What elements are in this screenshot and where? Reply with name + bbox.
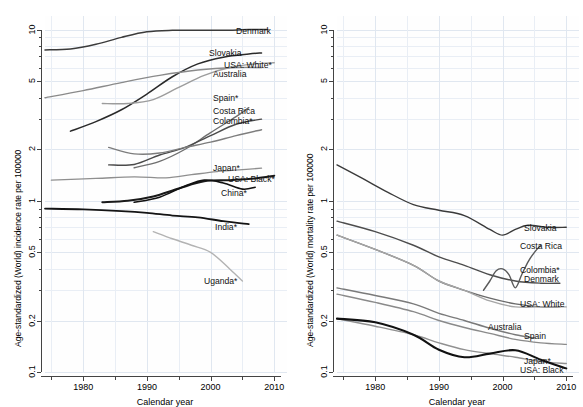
series-label-japan: Japan* [213,164,240,173]
series-label-slovakia: Slovakia [209,49,241,58]
series-label-spain: Spain [524,332,546,341]
series-label-usa-black: USA: Black [520,366,563,375]
series-label-denmark: Denmark [236,27,271,36]
series-line [109,130,262,155]
series-label-usa-black: USA: Black* [228,175,275,184]
series-layer [292,0,583,407]
series-label-colombia: Colombia* [213,117,253,126]
series-label-costa-rica: Costa Rica [213,107,255,116]
panel-mortality: 0.10.20.5125101980199020002010Calendar y… [292,0,583,407]
panel-incidence: 0.10.20.5125101980199020002010Calendar y… [0,0,291,407]
series-line [45,30,268,50]
figure-root: 0.10.20.5125101980199020002010Calendar y… [0,0,583,407]
series-label-uganda: Uganda* [204,277,237,286]
series-label-usa-white: USA: White [520,300,564,309]
series-label-slovakia: Slovakia [524,224,556,233]
series-label-costa-rica: Costa Rica [520,242,562,251]
series-label-australia: Australia [213,70,246,79]
series-line [153,232,242,281]
series-label-australia: Australia [488,323,521,332]
series-label-india: India* [215,223,237,232]
series-label-spain: Spain* [213,94,238,103]
series-label-denmark: Denmark [524,275,559,284]
series-label-china: China* [221,189,247,198]
series-line [109,119,262,165]
